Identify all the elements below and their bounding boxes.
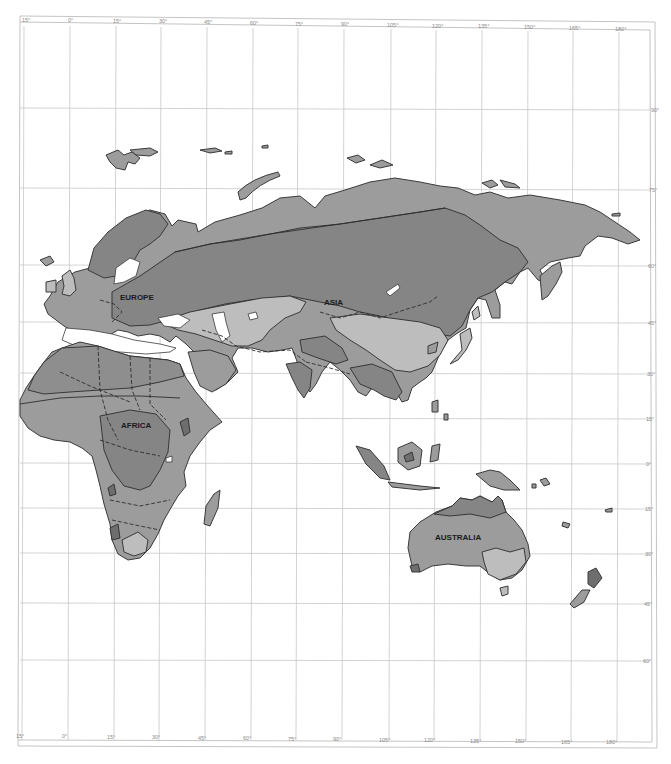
lon-label-bottom: 90° bbox=[333, 736, 341, 742]
lon-label-bottom: 60° bbox=[243, 735, 251, 741]
lat-label: 90° bbox=[651, 107, 659, 113]
lon-label-bottom: 45° bbox=[198, 735, 206, 741]
label-europe: EUROPE bbox=[120, 293, 154, 302]
label-australia: AUSTRALIA bbox=[435, 533, 481, 542]
lon-label-top: 105° bbox=[387, 22, 398, 28]
lon-label-bottom: 135° bbox=[470, 738, 481, 744]
lon-label-bottom: 30° bbox=[152, 734, 160, 740]
lon-label-top: 15° bbox=[22, 17, 30, 23]
lon-label-top: 135° bbox=[478, 23, 489, 29]
lat-label: 60° bbox=[643, 658, 651, 664]
lon-label-top: 90° bbox=[341, 21, 349, 27]
lat-label: 30° bbox=[647, 371, 655, 377]
lat-label: 60° bbox=[648, 263, 656, 269]
lon-label-bottom: 180° bbox=[606, 739, 617, 745]
lon-label-top: 15° bbox=[113, 18, 121, 24]
lat-label: 75° bbox=[649, 187, 657, 193]
lat-label: 0° bbox=[646, 461, 651, 467]
lat-label: 15° bbox=[646, 416, 654, 422]
lon-label-bottom: 15° bbox=[16, 733, 24, 739]
lat-label: 45° bbox=[648, 320, 656, 326]
lon-label-top: 30° bbox=[159, 18, 167, 24]
lon-label-top: 165° bbox=[569, 25, 580, 31]
africa[interactable] bbox=[20, 342, 222, 560]
lat-label: 15° bbox=[645, 506, 653, 512]
longitude-labels-bottom: 15° 0° 15° 30° 45° 60° 75° 90° 105° 120°… bbox=[16, 733, 617, 745]
lon-label-top: 60° bbox=[250, 20, 258, 26]
lon-label-top: 180° bbox=[615, 26, 626, 32]
lat-label: 30° bbox=[645, 551, 653, 557]
lon-label-top: 120° bbox=[432, 23, 443, 29]
world-map[interactable]: 15° 0° 15° 30° 45° 60° 75° 90° 105° 120°… bbox=[0, 0, 671, 764]
lon-label-bottom: 165° bbox=[561, 739, 572, 745]
lon-label-top: 45° bbox=[204, 19, 212, 25]
label-africa: AFRICA bbox=[121, 421, 151, 430]
southeast-asia-islands[interactable] bbox=[356, 400, 550, 490]
new-zealand[interactable] bbox=[570, 568, 602, 608]
australia[interactable] bbox=[408, 496, 530, 596]
lat-label: 45° bbox=[644, 601, 652, 607]
lon-label-top: 150° bbox=[524, 24, 535, 30]
madagascar[interactable] bbox=[204, 490, 220, 526]
lon-label-bottom: 150° bbox=[515, 738, 526, 744]
lon-label-bottom: 0° bbox=[62, 733, 67, 739]
lon-label-top: 75° bbox=[295, 21, 303, 27]
lon-label-bottom: 120° bbox=[424, 737, 435, 743]
label-asia: ASIA bbox=[324, 298, 343, 307]
lon-label-bottom: 105° bbox=[379, 737, 390, 743]
lon-label-bottom: 75° bbox=[288, 736, 296, 742]
lon-label-top: 0° bbox=[68, 17, 73, 23]
lon-label-bottom: 15° bbox=[107, 734, 115, 740]
